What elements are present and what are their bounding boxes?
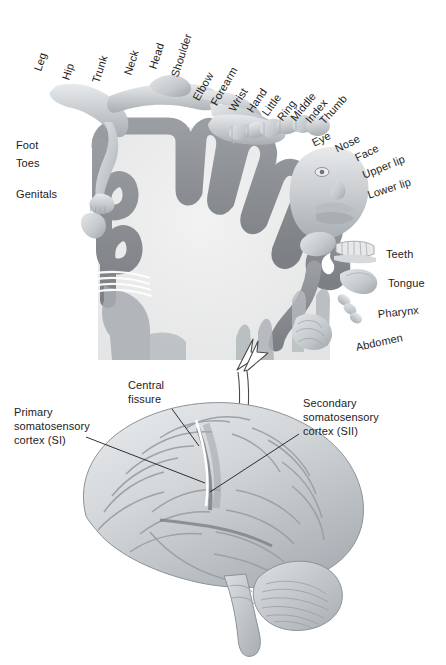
label-toes: Toes: [16, 157, 40, 171]
somatosensory-figure: Leg Hip Trunk Neck Head Shoulder Elbow F…: [0, 0, 446, 665]
teeth-shape: [334, 241, 376, 263]
label-abdomen: Abdomen: [355, 331, 405, 354]
label-tongue: Tongue: [388, 277, 425, 291]
annotation-line: cortex (SII): [303, 424, 379, 438]
leader-primary-si: [86, 437, 205, 483]
label-pharynx: Pharynx: [377, 304, 419, 322]
annotation-secondary-somatosensory-cortex: Secondary somatosensory cortex (SII): [303, 396, 379, 438]
annotation-primary-somatosensory-cortex: Primary somatosensory cortex (SI): [14, 405, 90, 447]
annotation-line: Central: [128, 378, 164, 392]
leader-secondary-sii: [210, 434, 299, 492]
annotation-line: Primary: [14, 405, 90, 419]
cortex-cross-section: [80, 125, 350, 370]
abdomen-shape: [292, 314, 332, 350]
brain-lateral-view: [83, 403, 363, 657]
annotation-line: cortex (SI): [14, 433, 90, 447]
label-hip: Hip: [59, 62, 77, 82]
annotation-line: somatosensory: [14, 419, 90, 433]
leader-central-fissure: [172, 409, 199, 446]
annotation-line: Secondary: [303, 396, 379, 410]
tongue-shape: [340, 269, 377, 294]
annotation-central-fissure: Central fissure: [128, 378, 164, 406]
label-genitals: Genitals: [16, 188, 57, 202]
pharynx-shape: [335, 292, 364, 326]
leader-lines: [86, 409, 299, 492]
label-head: Head: [146, 41, 167, 71]
label-leg: Leg: [31, 51, 50, 73]
label-teeth: Teeth: [386, 248, 413, 262]
expansion-arrow: [237, 339, 268, 412]
label-trunk: Trunk: [89, 54, 111, 85]
label-neck: Neck: [121, 49, 142, 77]
label-lower-lip: Lower lip: [366, 175, 413, 202]
annotation-line: fissure: [128, 392, 164, 406]
label-shoulder: Shoulder: [168, 32, 195, 79]
label-foot: Foot: [16, 139, 38, 153]
annotation-line: somatosensory: [303, 410, 379, 424]
label-eye: Eye: [310, 129, 333, 150]
